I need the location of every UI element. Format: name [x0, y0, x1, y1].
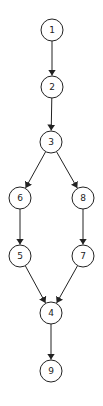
node-2: 2 [41, 76, 63, 98]
edge-7-to-4 [57, 266, 78, 303]
node-label: 3 [48, 137, 54, 147]
node-label: 7 [80, 251, 86, 261]
node-label: 9 [48, 366, 54, 376]
node-4: 4 [40, 302, 62, 324]
node-label: 6 [17, 193, 23, 203]
node-3: 3 [40, 131, 62, 153]
graph-canvas: 123685749 [0, 0, 103, 406]
node-1: 1 [41, 19, 63, 41]
flow-graph: 123685749 [0, 0, 103, 406]
edge-3-to-6 [26, 152, 46, 188]
node-5: 5 [9, 245, 31, 267]
node-label: 8 [80, 193, 86, 203]
node-6: 6 [9, 187, 31, 209]
node-8: 8 [72, 187, 94, 209]
node-label: 4 [48, 308, 54, 318]
edge-2-to-3 [51, 98, 52, 131]
node-label: 5 [17, 251, 23, 261]
node-9: 9 [40, 360, 62, 382]
edge-3-to-8 [56, 152, 77, 188]
edge-5-to-4 [25, 266, 45, 303]
node-label: 2 [49, 82, 55, 92]
node-7: 7 [72, 245, 94, 267]
node-label: 1 [49, 25, 55, 35]
